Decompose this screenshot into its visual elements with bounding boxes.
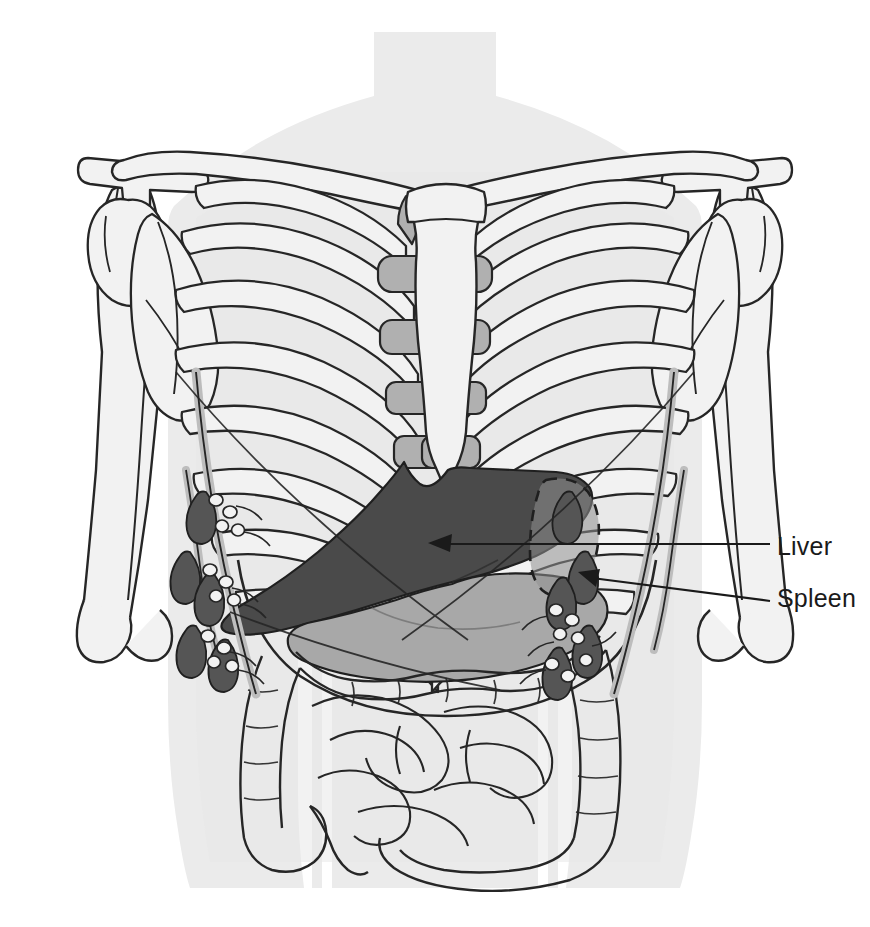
anatomy-illustration bbox=[0, 0, 870, 927]
label-spleen: Spleen bbox=[777, 584, 856, 613]
label-liver: Liver bbox=[777, 532, 832, 561]
anatomy-figure: Liver Spleen bbox=[0, 0, 870, 927]
